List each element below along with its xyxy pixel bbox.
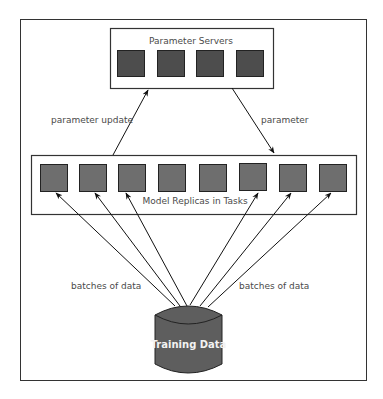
parameter-servers-group: Parameter Servers [111, 29, 274, 89]
batches-left-label: batches of data [71, 281, 141, 291]
parameter-servers-title: Parameter Servers [149, 36, 233, 46]
server-node-3 [197, 51, 224, 77]
replica-node-5 [200, 165, 227, 192]
model-replicas-group: Model Replicas in Tasks [32, 156, 357, 215]
replica-node-4 [159, 165, 186, 192]
training-data-cylinder: Training Data [151, 306, 227, 373]
training-data-label: Training Data [151, 339, 227, 350]
server-node-1 [118, 51, 145, 77]
batches-right-label: batches of data [239, 281, 309, 291]
diagram-canvas: Parameter Servers Model Replicas in Task… [0, 0, 383, 399]
parameter-update-label: parameter update [51, 115, 134, 125]
server-node-2 [158, 51, 185, 77]
replica-node-8 [320, 165, 347, 192]
server-node-4 [237, 51, 264, 77]
model-replicas-title: Model Replicas in Tasks [142, 196, 247, 206]
replica-node-7 [280, 165, 307, 192]
replica-node-1 [41, 165, 68, 192]
replica-node-2 [80, 165, 107, 192]
replica-node-6 [240, 164, 267, 191]
replica-node-3 [119, 165, 146, 192]
parameter-label: parameter [261, 115, 309, 125]
